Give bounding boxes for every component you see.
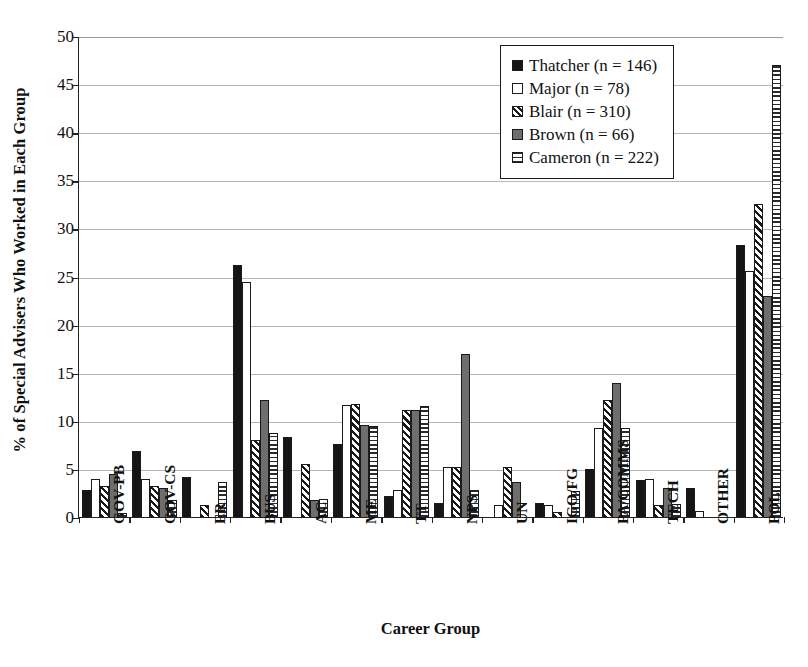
bar-chart-figure: % of Special Advisers Who Worked in Each… [0,0,808,667]
legend-swatch-open-white [512,83,523,94]
bar [452,467,461,517]
bar [351,404,360,517]
bar [461,354,470,517]
bar [686,488,695,517]
legend-swatch-diagonal-hatch [512,106,523,117]
legend-swatch-solid-black [512,60,523,71]
x-axis-category-labels: GOV-PBGOV-CSERBUSACMETTNPSUNIGO/FGPA/COM… [78,522,783,622]
bar [233,265,242,517]
bar [494,505,503,517]
bar [553,512,562,517]
bar [132,451,141,517]
x-label-text: ER [211,502,229,524]
x-label-text: IGO/FG [563,468,581,524]
legend-swatch-horizontal-hatch [512,152,523,163]
x-label-text: BUS [261,494,279,524]
bar-group-er [180,37,230,517]
bar-group-gov-cs [129,37,179,517]
bar [384,496,393,517]
bar [772,65,781,517]
legend-item: Blair (n = 310) [512,100,659,123]
bar-group-bus [230,37,280,517]
y-axis-title-text: % of Special Advisers Who Worked in Each… [10,88,30,453]
x-label-text: POL [765,492,783,524]
x-label-text: UN [513,502,531,524]
bar [100,486,109,517]
bar [544,505,553,517]
legend-label: Blair (n = 310) [529,102,631,122]
x-label-text: TT [412,503,430,524]
y-tick-label: 5 [34,460,74,480]
bar [745,271,754,517]
y-tick-label: 20 [34,316,74,336]
y-tick-label: 25 [34,268,74,288]
bar [645,479,654,517]
y-tick-label: 35 [34,171,74,191]
bar [141,479,150,517]
bar-group-nps [432,37,482,517]
legend-item: Brown (n = 66) [512,123,659,146]
bar-group-other [683,37,733,517]
bar [251,440,260,517]
bar [393,490,402,517]
legend-item: Major (n = 78) [512,77,659,100]
x-label-text: GOV-CS [161,465,179,524]
x-axis-title: Career Group [78,619,783,639]
bar [242,282,251,517]
bar [636,480,645,517]
bar [754,204,763,517]
x-label-text: NPS [463,495,481,524]
bar [654,505,663,518]
bar [411,410,420,517]
bar [443,467,452,517]
chart-legend: Thatcher (n = 146)Major (n = 78)Blair (n… [500,45,674,179]
y-tick-label: 50 [34,27,74,47]
legend-label: Major (n = 78) [529,79,630,99]
legend-label: Brown (n = 66) [529,125,634,145]
bar [91,479,100,517]
bar-group-ac [280,37,330,517]
bar [283,437,292,517]
bar-group-gov-pb [79,37,129,517]
bar [420,406,429,517]
x-tick-mark [784,517,785,523]
bar-series-layer [79,37,783,517]
plot-area [78,37,783,518]
legend-label: Cameron (n = 222) [529,148,659,168]
bar [695,511,704,517]
bar [301,464,310,517]
y-tick-label: 0 [34,508,74,528]
bar [434,503,443,517]
bar [402,410,411,517]
bar [594,428,603,517]
x-label-text: OTHER [714,468,732,524]
y-tick-label: 30 [34,219,74,239]
y-tick-label: 40 [34,123,74,143]
bar [182,477,191,517]
legend-item: Thatcher (n = 146) [512,54,659,77]
x-label-text: GOV-PB [110,465,128,524]
bar [82,490,91,517]
bar [603,400,612,517]
bar [333,444,342,517]
x-label-text: TECH [664,480,682,524]
bar [150,486,159,517]
bar-group-pol [734,37,784,517]
y-tick-label: 45 [34,75,74,95]
legend-item: Cameron (n = 222) [512,146,659,169]
bar [763,296,772,517]
bar [535,503,544,517]
bar-group-me [331,37,381,517]
bar [736,245,745,517]
bar-group-tt [381,37,431,517]
bar [585,469,594,517]
y-tick-label: 15 [34,364,74,384]
legend-label: Thatcher (n = 146) [529,56,657,76]
x-label-text: AC [312,502,330,524]
x-label-text: PA/COMMS [614,439,632,524]
bar [342,405,351,517]
x-label-text: ME [362,499,380,524]
bar [503,467,512,517]
bar [200,505,209,518]
legend-swatch-solid-gray [512,129,523,140]
